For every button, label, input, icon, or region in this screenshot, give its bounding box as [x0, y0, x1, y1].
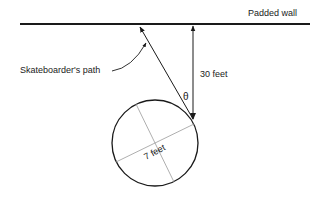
skateboarder-path-label: Skateboarder's path [20, 65, 100, 75]
angle-theta-label: θ [183, 91, 189, 102]
diameter-label: 7 feet [142, 142, 167, 162]
path-pointer-arrow [112, 43, 146, 71]
skateboard-diagram: Padded wall 7 feet 30 feet θ Skateboarde… [0, 0, 325, 205]
distance-label: 30 feet [200, 69, 228, 79]
skateboarder-path-arrow [140, 27, 193, 119]
padded-wall-label: Padded wall [248, 8, 297, 18]
